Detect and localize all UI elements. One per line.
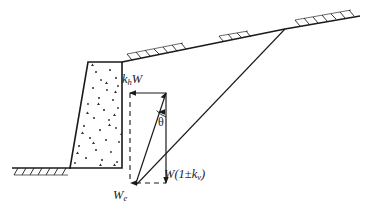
ground-line-group (12, 168, 71, 175)
horizontal-force-label: khW (122, 73, 142, 86)
retaining-wall (70, 62, 123, 168)
angle-theta-label: θ (158, 116, 164, 128)
backfill-slope-hatching (127, 10, 354, 60)
failure-wedge-line (136, 29, 285, 185)
vertical-force-label: W(1±kv) (164, 168, 205, 181)
retaining-wall-seismic-figure: khW θ W(1±kv) We (0, 0, 366, 212)
bottom-dashed-arrowhead (130, 180, 137, 185)
backfill-slope-line (122, 10, 360, 62)
ground-hatching (14, 168, 68, 175)
resultant-force-label: We (113, 189, 127, 202)
